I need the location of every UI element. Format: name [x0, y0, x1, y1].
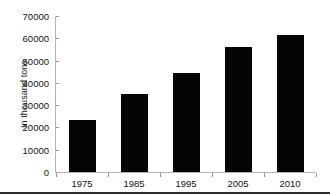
x-axis-tick-label: 2010 — [260, 178, 320, 189]
bar — [121, 94, 148, 172]
x-axis-tick-mark — [264, 173, 265, 177]
x-axis-tick-mark — [160, 173, 161, 177]
bar — [277, 35, 304, 172]
plot-area — [56, 16, 316, 172]
x-axis-tick-mark — [56, 173, 57, 177]
x-axis-tick-label: 2005 — [208, 178, 268, 189]
x-axis-tick-mark — [316, 173, 317, 177]
x-axis-tick-label: 1995 — [156, 178, 216, 189]
y-axis-tick-label: 0 — [5, 167, 49, 178]
y-axis-tick-label: 20000 — [5, 122, 49, 133]
y-axis-tick-labels: 010000200003000040000500006000070000 — [5, 0, 49, 194]
y-axis-tick-label: 30000 — [5, 100, 49, 111]
y-axis-tick-label: 50000 — [5, 55, 49, 66]
y-axis-tick-label: 10000 — [5, 144, 49, 155]
bar — [225, 47, 252, 172]
x-axis-tick-label: 1985 — [104, 178, 164, 189]
y-axis-tick-label: 60000 — [5, 33, 49, 44]
x-axis-tick-mark — [108, 173, 109, 177]
y-axis-tick-label: 70000 — [5, 11, 49, 22]
x-axis-tick-label: 1975 — [52, 178, 112, 189]
x-axis-tick-labels: 19751985199520052010 — [56, 178, 316, 192]
bar — [69, 120, 96, 172]
bar-chart: In thousand tons 01000020000300004000050… — [0, 0, 330, 194]
bar — [173, 73, 200, 172]
x-axis-tick-mark — [212, 173, 213, 177]
y-axis-tick-label: 40000 — [5, 77, 49, 88]
